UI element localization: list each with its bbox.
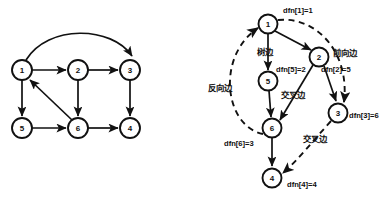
node-2-label: 2 [76,66,81,75]
dfs-node-5-label: 5 [266,77,271,86]
node-2[interactable]: 2 [68,60,88,80]
node-4[interactable]: 4 [120,118,140,138]
dfs-node-2[interactable]: 2 [310,48,329,67]
node-3[interactable]: 3 [120,60,140,80]
canvas-background [0,0,392,201]
dfn-label-2: dfn[2]=5 [321,65,352,74]
dfs-node-3-label: 3 [336,109,341,118]
dfs-node-6[interactable]: 6 [263,119,282,138]
dfn-label-1: dfn[1]=1 [283,6,314,15]
figure-canvas: 1 2 3 5 6 4 [0,0,392,201]
dfs-node-2-label: 2 [317,53,322,62]
forward-edge-label: 前向边 [333,48,358,58]
dfn-label-4: dfn[4]=4 [287,180,318,189]
cross-edge-label-2: 交叉边 [303,134,328,144]
dfs-node-4[interactable]: 4 [263,169,282,188]
dfs-node-5[interactable]: 5 [259,72,278,91]
node-6-label: 6 [76,124,81,133]
diagram-svg: 1 2 3 5 6 4 [0,0,392,201]
dfs-node-1[interactable]: 1 [259,15,278,34]
dfn-label-3: dfn[3]=6 [349,111,379,120]
node-3-label: 3 [128,66,133,75]
node-1-label: 1 [20,66,25,75]
dfs-node-6-label: 6 [270,124,275,133]
tree-edge-label: 树边 [257,47,274,57]
dfn-label-5: dfn[5]=2 [276,65,306,74]
dfn-label-6: dfn[6]=3 [224,139,254,148]
cross-edge-label-1: 交叉边 [281,90,306,100]
node-1[interactable]: 1 [12,60,32,80]
node-4-label: 4 [128,124,133,133]
dfs-node-3[interactable]: 3 [329,104,348,123]
dfs-node-4-label: 4 [270,174,275,183]
dfs-node-1-label: 1 [266,20,271,29]
node-5[interactable]: 5 [12,118,32,138]
node-5-label: 5 [20,124,25,133]
back-edge-label: 反向边 [208,83,233,93]
node-6[interactable]: 6 [68,118,88,138]
